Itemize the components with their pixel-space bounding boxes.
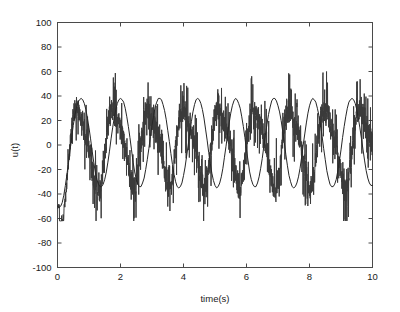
y-tick-label: -20: [38, 164, 52, 175]
y-tick-label: -80: [38, 237, 52, 248]
x-tick-label: 2: [118, 271, 123, 282]
y-tick-label: -100: [32, 262, 51, 273]
figure-canvas: -100-80-60-40-20020406080100 0246810 tim…: [0, 0, 400, 312]
x-tick-label: 0: [55, 271, 60, 282]
y-tick-label: 20: [41, 115, 52, 126]
x-tick-label: 10: [367, 271, 378, 282]
y-axis-label: u(t): [9, 143, 20, 157]
y-tick-label: 40: [41, 90, 52, 101]
x-axis-label: time(s): [200, 293, 229, 304]
y-tick-label: -60: [38, 213, 52, 224]
x-tick-label: 8: [307, 271, 312, 282]
y-tick-label: -40: [38, 188, 52, 199]
y-tick-label: 100: [36, 17, 52, 28]
y-tick-label: 60: [41, 66, 52, 77]
y-tick-label: 0: [46, 139, 51, 150]
x-tick-label: 4: [181, 271, 186, 282]
y-tick-label: 80: [41, 41, 52, 52]
x-tick-label: 6: [244, 271, 249, 282]
